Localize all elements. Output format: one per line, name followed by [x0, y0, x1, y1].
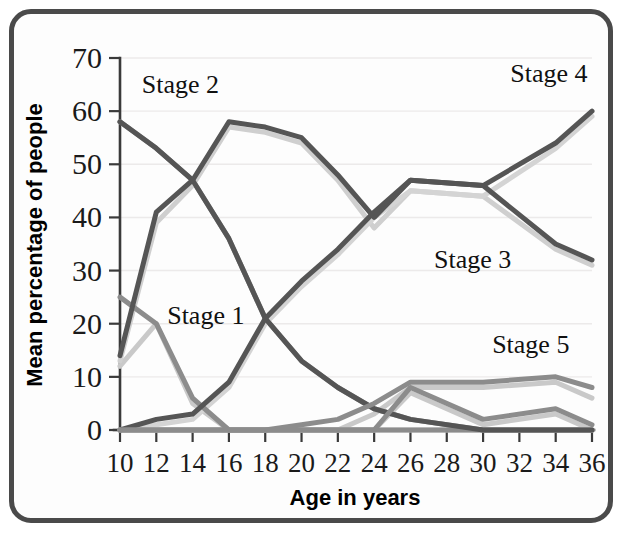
- y-axis-title: Mean percentage of people: [22, 103, 47, 387]
- x-tick-label: 10: [107, 448, 134, 478]
- y-tick-label: 70: [72, 41, 102, 74]
- x-tick-label: 22: [324, 448, 351, 478]
- series-label-stage-2: Stage 2: [142, 70, 219, 99]
- y-tick-label: 50: [72, 147, 102, 180]
- x-tick-label: 20: [288, 448, 315, 478]
- line-chart: 010203040506070 101214161820222426283032…: [0, 0, 625, 534]
- series-label-stage-4: Stage 4: [510, 59, 587, 88]
- y-tick-labels: 010203040506070: [72, 41, 102, 446]
- y-tick-label: 40: [72, 200, 102, 233]
- x-tick-label: 26: [397, 448, 424, 478]
- x-tick-label: 12: [143, 448, 170, 478]
- x-tick-label: 28: [433, 448, 460, 478]
- axis-lines: [114, 58, 594, 430]
- series-label-stage-3: Stage 3: [434, 245, 511, 274]
- y-tick-label: 30: [72, 254, 102, 287]
- y-tick-label: 20: [72, 307, 102, 340]
- chart-figure: 010203040506070 101214161820222426283032…: [0, 0, 625, 534]
- series-label-stage-5: Stage 5: [492, 330, 569, 359]
- x-tick-label: 14: [179, 448, 207, 478]
- y-tick-label: 60: [72, 94, 102, 127]
- x-tick-label: 24: [361, 448, 389, 478]
- x-tick-label: 18: [252, 448, 279, 478]
- x-tick-label: 36: [579, 448, 606, 478]
- x-tick-label: 34: [542, 448, 570, 478]
- x-tick-label: 30: [470, 448, 497, 478]
- y-tick-label: 10: [72, 360, 102, 393]
- x-tick-labels: 1012141618202224262830323436: [107, 448, 606, 478]
- series-label-stage-1: Stage 1: [167, 301, 244, 330]
- x-tick-label: 32: [506, 448, 533, 478]
- x-axis-title: Age in years: [290, 485, 421, 510]
- y-tick-label: 0: [87, 413, 102, 446]
- x-tick-label: 16: [215, 448, 242, 478]
- y-tick-marks: [109, 58, 120, 430]
